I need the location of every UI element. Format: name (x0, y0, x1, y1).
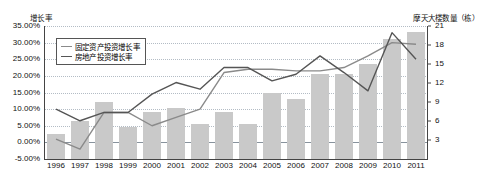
x-label-2001: 2001 (167, 161, 185, 170)
right-tick-mark (428, 64, 431, 65)
right-tick-label: 3 (435, 136, 439, 144)
right-tick-label: 12 (435, 79, 444, 87)
left-tick-label: 35.00% (13, 22, 40, 30)
chart-legend: 固定资产投资增长率 房地产投资增长率 (56, 38, 146, 65)
right-tick-mark (428, 140, 431, 141)
right-tick-label: 21 (435, 22, 444, 30)
right-tick-label: 15 (435, 60, 444, 68)
x-label-2003: 2003 (215, 161, 233, 170)
left-tick-label: 15.00% (13, 89, 40, 97)
x-label-2008: 2008 (335, 161, 353, 170)
x-axis-labels: 1996199719981999200020012002200320042005… (44, 161, 428, 175)
left-tick-label: 10.00% (13, 105, 40, 113)
legend-swatch-real-estate (61, 56, 72, 57)
right-tick-mark (428, 121, 431, 122)
x-label-1999: 1999 (119, 161, 137, 170)
x-label-1998: 1998 (95, 161, 113, 170)
legend-swatch-fixed-asset (61, 46, 72, 47)
right-tick-mark (428, 83, 431, 84)
right-axis-title: 摩天大楼数量（栋） (413, 12, 479, 23)
legend-item-real-estate: 房地产投资增长率 (61, 51, 140, 61)
x-label-1996: 1996 (47, 161, 65, 170)
left-tick-label: 20.00% (13, 72, 40, 80)
x-label-2006: 2006 (287, 161, 305, 170)
x-label-2007: 2007 (311, 161, 329, 170)
x-label-1997: 1997 (71, 161, 89, 170)
x-label-2002: 2002 (191, 161, 209, 170)
left-tick-label: 0.00% (17, 138, 40, 146)
left-tick-label: 25.00% (13, 55, 40, 63)
legend-item-fixed-asset: 固定资产投资增长率 (61, 41, 140, 51)
growth-rate-skyscraper-combo-chart: 增长率 摩天大楼数量（栋） -5.00%0.00%5.00%10.00%15.0… (0, 0, 481, 192)
left-tick-label: 30.00% (13, 39, 40, 47)
right-tick-mark (428, 26, 431, 27)
left-tick-label: 5.00% (17, 122, 40, 130)
x-label-2011: 2011 (407, 161, 424, 170)
x-label-2005: 2005 (263, 161, 281, 170)
x-label-2009: 2009 (359, 161, 377, 170)
legend-label-real-estate: 房地产投资增长率 (75, 51, 133, 62)
x-label-2010: 2010 (383, 161, 401, 170)
right-tick-label: 6 (435, 117, 439, 125)
right-tick-label: 18 (435, 41, 444, 49)
x-label-2004: 2004 (239, 161, 257, 170)
left-tick-label: -5.00% (15, 155, 40, 163)
x-axis-line (44, 159, 428, 160)
right-tick-mark (428, 45, 431, 46)
right-tick-label: 9 (435, 98, 439, 106)
right-tick-mark (428, 102, 431, 103)
x-label-2000: 2000 (143, 161, 161, 170)
